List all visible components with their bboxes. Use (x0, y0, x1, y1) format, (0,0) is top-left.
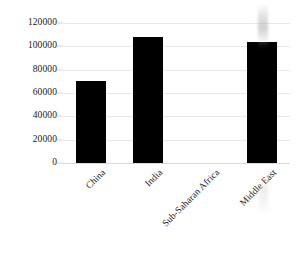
gridline (62, 163, 290, 164)
y-axis-tick-label: 20000 (0, 135, 57, 145)
x-axis-tick-label: China (84, 168, 107, 191)
y-axis-tick-label: 100000 (0, 42, 57, 52)
x-axis-tick-label: Sub-Saharan Africa (160, 168, 221, 229)
scan-artifact-top (258, 4, 268, 48)
bar-chart: 020000400006000080000100000120000 ChinaI… (0, 0, 306, 268)
y-axis-tick-mark (57, 116, 62, 117)
y-axis-tick-label: 0 (0, 158, 57, 168)
plot-area (62, 23, 290, 163)
y-axis-tick-label: 40000 (0, 112, 57, 122)
bar (76, 81, 106, 163)
y-axis-tick-mark (57, 163, 62, 164)
x-axis-tick-label: India (143, 168, 164, 189)
y-axis-tick-mark (57, 23, 62, 24)
bar (247, 42, 277, 163)
y-axis-tick-label: 60000 (0, 88, 57, 98)
y-axis-tick-mark (57, 69, 62, 70)
y-axis-tick-label: 80000 (0, 65, 57, 75)
y-axis: 020000400006000080000100000120000 (0, 23, 57, 163)
y-axis-tick-mark (57, 93, 62, 94)
y-axis-tick-mark (57, 46, 62, 47)
bar (133, 37, 163, 163)
gridline (62, 23, 290, 24)
y-axis-tick-label: 120000 (0, 18, 57, 28)
scan-artifact-bottom (259, 176, 268, 212)
y-axis-tick-mark (57, 139, 62, 140)
